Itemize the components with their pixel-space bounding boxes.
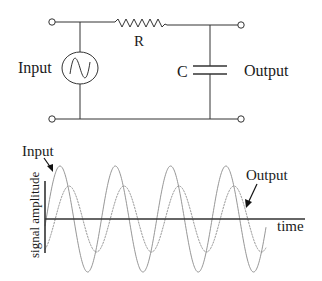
- waveform-graph: Input Output time signal amplitude: [22, 143, 305, 272]
- x-axis-label: time: [277, 218, 304, 234]
- ac-source-icon: [62, 52, 98, 84]
- graph-output-label: Output: [246, 167, 289, 183]
- output-terminal-top: [238, 22, 244, 28]
- resistor-label: R: [134, 33, 144, 49]
- y-axis-label: signal amplitude: [27, 171, 42, 258]
- output-arrow-icon: [245, 184, 257, 208]
- input-arrow-icon: [44, 158, 53, 172]
- output-terminal-bottom: [238, 116, 244, 122]
- resistor-icon: [115, 19, 167, 27]
- input-terminal-bottom: [49, 116, 55, 122]
- graph-input-label: Input: [22, 143, 54, 159]
- circuit-input-label: Input: [18, 59, 52, 77]
- input-terminal-top: [49, 19, 55, 25]
- circuit: Input R C Output: [18, 19, 289, 122]
- rc-circuit-diagram: Input R C Output Input Output time signa…: [0, 0, 322, 281]
- circuit-output-label: Output: [244, 62, 289, 80]
- capacitor-label: C: [177, 63, 188, 80]
- capacitor-icon: [193, 66, 227, 74]
